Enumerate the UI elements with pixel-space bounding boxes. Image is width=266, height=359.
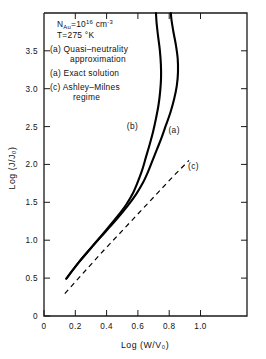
- x-tick-label: 0.4: [100, 322, 113, 331]
- curve-label-b: (b): [127, 121, 138, 131]
- chart-plot: 0 0.5 1.0 1.5 2.0 2.5 3.0 3.5 0 0.2 0.4 …: [0, 0, 266, 359]
- x-axis-label: Log (W/V₀): [121, 340, 169, 350]
- y-tick-label: 0.5: [25, 274, 38, 283]
- x-tick-label: 0.8: [163, 322, 176, 331]
- y-tick-label: 3.5: [25, 47, 38, 56]
- y-tick-label: 1.5: [25, 198, 38, 207]
- y-tick-label: 0: [33, 312, 38, 321]
- legend: (a) Quasi–neutrality approximation (a) E…: [50, 44, 129, 102]
- curve-ashley-milnes: [65, 160, 189, 293]
- x-tick-label: 0.6: [132, 322, 145, 331]
- y-axis-tick-labels: 0 0.5 1.0 1.5 2.0 2.5 3.0 3.5: [25, 47, 38, 321]
- legend-entry-a-line2: approximation: [70, 54, 126, 64]
- y-tick-label: 3.0: [25, 85, 38, 94]
- x-tick-label: 1.0: [194, 322, 207, 331]
- y-tick-label: 2.5: [25, 123, 38, 132]
- temperature-annotation: T=275 °K: [57, 30, 94, 40]
- x-tick-label: 0: [42, 322, 47, 331]
- legend-entry-c-line2: regime: [73, 92, 100, 102]
- figure-container: 0 0.5 1.0 1.5 2.0 2.5 3.0 3.5 0 0.2 0.4 …: [0, 0, 266, 359]
- legend-entry-c-line1: (c) Ashley–Milnes: [50, 82, 120, 92]
- curve-labels: (b) (a) (c): [127, 121, 199, 171]
- y-tick-label: 2.0: [25, 160, 38, 169]
- legend-entry-a-line1: (a) Quasi–neutrality: [50, 44, 129, 54]
- y-tick-label: 1.0: [25, 236, 38, 245]
- y-axis-label: Log (J/J₀): [7, 147, 17, 190]
- curve-label-c: (c): [188, 161, 199, 171]
- annotation-conditions: NAu=1016 cm-3 T=275 °K: [57, 19, 114, 40]
- curve-label-a: (a): [168, 125, 179, 135]
- x-axis-tick-labels: 0 0.2 0.4 0.6 0.8 1.0: [42, 322, 207, 331]
- doping-annotation: NAu=1016 cm-3: [57, 19, 114, 30]
- x-tick-label: 0.2: [69, 322, 82, 331]
- legend-entry-b-line1: (a) Exact solution: [50, 68, 119, 78]
